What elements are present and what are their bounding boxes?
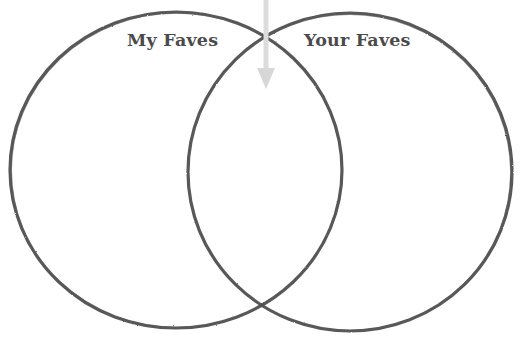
set-circle-left: [10, 12, 342, 328]
set-label-left: My Faves: [127, 30, 218, 50]
venn-diagram-canvas: My Faves Your Faves: [0, 0, 521, 337]
down-arrow-icon: [257, 0, 275, 89]
set-circle-right: [188, 13, 512, 331]
set-label-right: Your Faves: [304, 30, 411, 50]
venn-diagram-graphic: [0, 0, 521, 337]
